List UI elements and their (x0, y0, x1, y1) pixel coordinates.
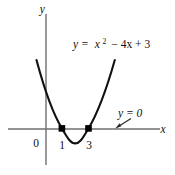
root-marker-x3 (85, 125, 92, 132)
equation-label: y = x 2 − 4x + 3 (72, 34, 150, 51)
root-marker-x1 (59, 125, 66, 132)
equation-prefix: y = (72, 38, 89, 51)
parabola-figure: y x 0 1 3 y = x 2 − 4x + 3 y = 0 (0, 0, 175, 175)
tick-label-0: 0 (33, 137, 39, 149)
equation-term-x: x (94, 38, 101, 50)
y-axis-label: y (39, 3, 46, 16)
annotation-y-equals-zero: y = 0 (117, 107, 143, 120)
graph-canvas: y x 0 1 3 y = x 2 − 4x + 3 y = 0 (0, 0, 175, 175)
equation-rest: − 4x + 3 (111, 38, 150, 50)
parabola-curve (37, 60, 115, 143)
annotation-pointer-head (115, 123, 121, 128)
tick-label-1: 1 (59, 139, 65, 151)
x-axis-label: x (159, 123, 166, 135)
tick-label-3: 3 (86, 139, 92, 151)
equation-exponent: 2 (103, 37, 107, 46)
